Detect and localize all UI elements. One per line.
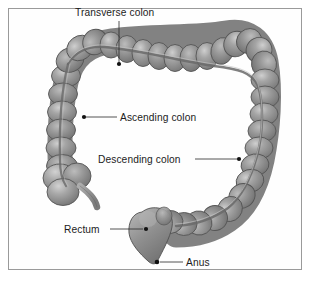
label-descending-colon[interactable]: Descending colon <box>98 154 241 165</box>
label-text-descending-colon: Descending colon <box>98 154 181 165</box>
leader-dot-ascending-colon <box>82 115 86 119</box>
leader-dot-rectum <box>144 227 148 231</box>
label-anus[interactable]: Anus <box>155 257 210 268</box>
colon-diagram-svg: Transverse colon Ascending colon Descend… <box>0 0 313 283</box>
label-ascending-colon[interactable]: Ascending colon <box>82 112 196 123</box>
descending-colon-segments <box>233 69 279 196</box>
rectum-shape <box>129 207 173 264</box>
label-text-transverse-colon: Transverse colon <box>75 7 154 18</box>
leader-dot-descending-colon <box>237 157 241 161</box>
label-text-rectum: Rectum <box>64 224 100 235</box>
label-text-ascending-colon: Ascending colon <box>120 112 196 123</box>
leader-dot-transverse-colon <box>117 62 121 66</box>
leader-dot-anus <box>155 260 160 265</box>
label-text-anus: Anus <box>186 257 210 268</box>
appendix-shape <box>80 186 97 207</box>
colon-diagram-figure: Transverse colon Ascending colon Descend… <box>0 0 313 283</box>
